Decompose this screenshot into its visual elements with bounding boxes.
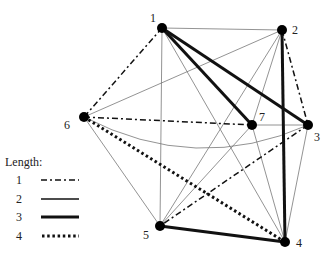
edge-3-4: [285, 125, 308, 242]
edge-1-4: [162, 28, 285, 242]
legend-value: 4: [16, 229, 22, 243]
edge-1-5: [160, 28, 162, 226]
edges-layer: [84, 28, 308, 242]
node-5: [155, 221, 165, 231]
legend-item-1: 1: [16, 173, 79, 187]
node-label-1: 1: [150, 11, 156, 25]
node-1: [157, 23, 167, 33]
edge-2-7: [252, 30, 282, 125]
edge-5-4: [160, 226, 285, 242]
edge-1-2: [162, 28, 282, 30]
edge-1-3: [162, 28, 308, 125]
node-label-3: 3: [314, 130, 320, 144]
legend-value: 2: [16, 192, 22, 206]
edge-7-5: [160, 125, 252, 226]
node-label-2: 2: [292, 23, 298, 37]
node-label-4: 4: [296, 236, 302, 250]
legend-item-2: 2: [16, 192, 79, 206]
node-label-5: 5: [143, 228, 149, 242]
graph-diagram: 1234567 Length: 1 2 3 4: [0, 0, 334, 257]
edge-1-6: [84, 28, 162, 117]
legend-value: 3: [16, 210, 22, 224]
node-7: [247, 120, 257, 130]
legend-item-4: 4: [16, 229, 79, 243]
node-4: [280, 237, 290, 247]
node-6: [79, 112, 89, 122]
node-label-7: 7: [259, 110, 265, 124]
edge-2-4: [282, 30, 285, 242]
node-3: [303, 120, 313, 130]
legend-item-3: 3: [16, 210, 79, 224]
legend: Length: 1 2 3 4: [5, 155, 79, 243]
legend-title: Length:: [5, 155, 42, 169]
node-label-6: 6: [64, 118, 70, 132]
legend-value: 1: [16, 173, 22, 187]
node-2: [277, 25, 287, 35]
edge-2-5: [160, 30, 282, 226]
